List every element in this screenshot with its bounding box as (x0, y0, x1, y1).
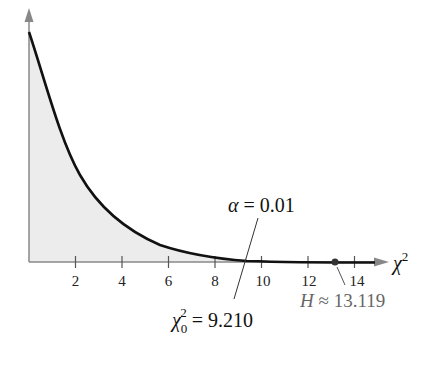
tick-label: 14 (350, 273, 366, 289)
test-statistic-point (332, 259, 339, 266)
tick-label: 6 (165, 273, 173, 289)
critical-value-annotation: χ02 = 9.210 (170, 305, 253, 336)
tick-label: 8 (211, 273, 219, 289)
y-axis-arrow-icon (25, 8, 34, 22)
tick-label: 2 (72, 273, 80, 289)
x-tick-labels: 2 4 6 8 10 12 14 (72, 273, 365, 289)
statistic-leader-line (337, 267, 345, 285)
x-axis-arrow-icon (374, 258, 389, 267)
critical-leader-line (234, 218, 258, 299)
tick-label: 4 (118, 273, 126, 289)
tick-label: 12 (302, 273, 317, 289)
test-statistic-annotation: H ≈ 13.119 (299, 290, 385, 311)
chart-canvas: 2 4 6 8 10 12 14 χ2 α = 0.01 χ02 = 9.210… (0, 0, 435, 367)
shaded-region (29, 32, 247, 262)
x-axis-label: χ2 (391, 249, 408, 275)
alpha-annotation: α = 0.01 (228, 194, 295, 216)
tick-label: 10 (256, 273, 271, 289)
